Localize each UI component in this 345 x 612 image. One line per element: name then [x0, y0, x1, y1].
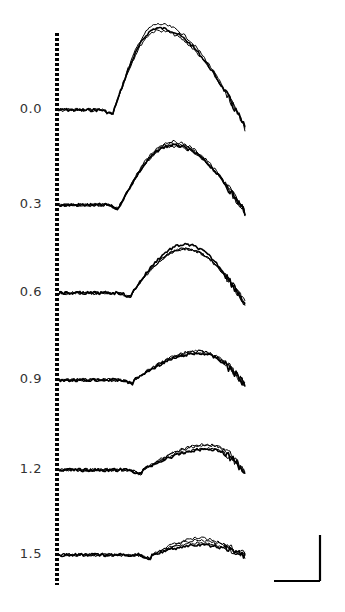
- row-label: 0.3: [0, 196, 42, 211]
- trial-trace: [59, 448, 245, 476]
- scale-bar: [274, 535, 320, 581]
- row-label: 1.5: [0, 546, 42, 561]
- trial-trace: [59, 248, 245, 305]
- trial-trace: [59, 244, 245, 305]
- row-label: 0.6: [0, 284, 42, 299]
- stacked-traces-figure: [0, 0, 345, 612]
- trial-trace: [59, 30, 245, 129]
- trial-trace: [59, 248, 245, 306]
- trial-trace: [59, 23, 245, 131]
- trial-trace: [59, 542, 245, 560]
- row-label: 0.9: [0, 371, 42, 386]
- row-label: 1.2: [0, 461, 42, 476]
- row-label: 0.0: [0, 101, 42, 116]
- trace-group: [59, 23, 245, 560]
